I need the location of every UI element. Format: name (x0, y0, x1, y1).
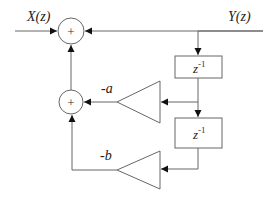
gain-b-label: -b (100, 148, 112, 163)
delay-1-exp: -1 (198, 59, 206, 69)
output-label: Y(z) (228, 9, 251, 25)
gain-a-label: -a (101, 81, 113, 96)
tap-b-line (161, 148, 198, 169)
input-label: X(z) (26, 9, 51, 25)
summer-2-symbol: + (67, 95, 74, 110)
gain-b-triangle (117, 151, 160, 189)
delay-2-label: z-1 (192, 125, 206, 142)
summer-1-symbol: + (67, 24, 74, 39)
delay-1-label: z-1 (192, 59, 206, 76)
block-diagram: + + X(z) Y(z) -a -b z-1 z-1 (0, 0, 271, 200)
gain-a-triangle (117, 81, 160, 123)
delay-2-exp: -1 (198, 125, 206, 135)
